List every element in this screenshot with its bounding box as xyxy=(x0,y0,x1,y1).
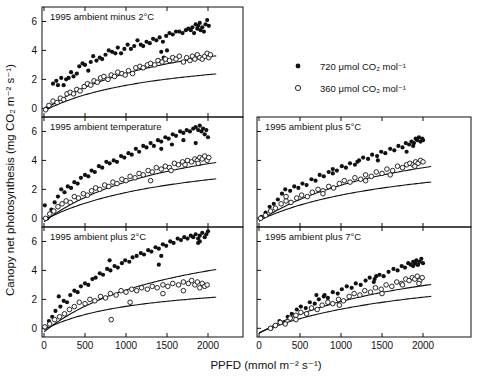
data-point xyxy=(56,204,61,209)
data-point xyxy=(161,291,166,296)
data-point xyxy=(52,209,57,214)
data-point xyxy=(331,290,335,294)
y-tick-label: 2 xyxy=(31,74,37,85)
data-point xyxy=(77,300,82,305)
data-point xyxy=(88,297,93,302)
data-point xyxy=(47,212,52,217)
data-point xyxy=(159,50,163,54)
data-point xyxy=(413,164,418,169)
data-point xyxy=(77,64,81,68)
panel-ambient-temperature: 02461995 ambient temperature xyxy=(31,117,243,227)
data-point xyxy=(93,170,97,174)
data-point xyxy=(98,294,103,299)
data-point xyxy=(326,296,330,300)
panel-data xyxy=(258,135,431,221)
data-point xyxy=(292,184,296,188)
data-point xyxy=(124,178,129,183)
data-point xyxy=(150,170,155,175)
y-tick-label: 6 xyxy=(31,236,37,247)
data-point xyxy=(68,200,73,205)
data-point xyxy=(411,144,415,148)
y-tick-label: 4 xyxy=(31,155,37,166)
data-point xyxy=(188,129,192,133)
y-tick-label: 2 xyxy=(31,184,37,195)
data-point xyxy=(352,291,357,296)
data-point xyxy=(128,300,133,305)
data-point xyxy=(108,258,112,262)
data-point xyxy=(361,155,365,159)
data-point xyxy=(322,174,326,178)
data-point xyxy=(61,97,66,102)
data-point xyxy=(112,74,117,79)
data-point xyxy=(194,232,198,236)
data-point xyxy=(355,160,359,164)
data-point xyxy=(317,297,321,301)
data-point xyxy=(145,287,150,292)
data-point xyxy=(331,301,336,306)
data-point xyxy=(134,288,139,293)
data-point xyxy=(205,283,210,288)
data-point xyxy=(116,265,120,269)
data-point xyxy=(421,160,426,165)
panel-data xyxy=(43,18,216,112)
data-point xyxy=(95,80,100,85)
data-point xyxy=(43,216,48,221)
x-tick-label: 0 xyxy=(256,340,262,351)
data-point xyxy=(370,153,374,157)
figure-svg: 02461995 ambient minus 2°C02461995 ambie… xyxy=(0,0,481,377)
data-point xyxy=(164,244,168,248)
data-point xyxy=(198,124,202,128)
data-point xyxy=(348,161,352,165)
data-point xyxy=(181,280,186,285)
data-point xyxy=(183,162,188,167)
data-point xyxy=(62,312,67,317)
legend-label-720: 720 μmol CO₂ mol⁻¹ xyxy=(320,61,406,72)
data-point xyxy=(391,267,395,271)
data-point xyxy=(133,175,138,180)
data-point xyxy=(415,274,420,279)
y-tick-label: 4 xyxy=(31,265,37,276)
data-point xyxy=(65,300,69,304)
data-point xyxy=(379,150,383,154)
data-point xyxy=(120,261,124,265)
data-point xyxy=(313,302,317,306)
panel-ambient-plus-7: 05001000150020001995 ambient plus 7°C xyxy=(256,227,471,351)
data-point xyxy=(43,325,48,330)
data-point xyxy=(189,278,194,283)
data-point xyxy=(137,150,141,154)
data-point xyxy=(400,283,405,288)
data-point xyxy=(309,306,314,311)
data-point xyxy=(123,73,128,78)
data-point xyxy=(113,51,117,55)
data-point xyxy=(359,283,363,287)
series-360 xyxy=(268,274,424,331)
data-point xyxy=(58,305,62,309)
y-tick-label: 0 xyxy=(31,323,37,334)
data-point xyxy=(161,40,165,44)
data-point xyxy=(342,178,347,183)
data-point xyxy=(278,320,283,325)
data-point xyxy=(157,247,161,251)
data-point xyxy=(171,241,175,245)
data-point xyxy=(43,203,47,207)
data-point xyxy=(310,190,315,195)
data-point xyxy=(127,260,131,264)
data-point xyxy=(75,71,79,75)
data-point xyxy=(272,202,276,206)
data-point xyxy=(296,186,300,190)
data-point xyxy=(181,131,185,135)
y-tick-label: 2 xyxy=(31,294,37,305)
plot-root: 02461995 ambient minus 2°C02461995 ambie… xyxy=(4,7,471,371)
series-720 xyxy=(44,229,211,329)
x-axis-label: PPFD (mmol m⁻² s⁻¹) xyxy=(210,359,321,371)
data-point xyxy=(94,276,98,280)
data-point xyxy=(299,305,303,309)
panel-title: 1995 ambient plus 7°C xyxy=(265,231,361,242)
data-point xyxy=(315,307,320,312)
data-point xyxy=(62,190,66,194)
panel-data xyxy=(43,124,216,222)
data-point xyxy=(385,167,390,172)
data-point xyxy=(71,74,75,78)
data-point xyxy=(89,189,94,194)
data-point xyxy=(76,181,80,185)
